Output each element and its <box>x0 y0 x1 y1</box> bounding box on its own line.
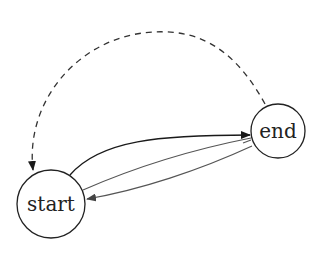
edge-start-to-end-straight <box>83 138 251 190</box>
edge-start-to-end-curved <box>70 135 250 175</box>
node-start: start <box>17 170 85 238</box>
state-diagram: start end <box>0 0 327 255</box>
node-start-label: start <box>27 192 75 216</box>
node-end: end <box>251 104 305 158</box>
diagram-canvas: start end <box>0 0 327 255</box>
edge-start-to-end-stub <box>243 140 251 143</box>
node-end-label: end <box>259 119 297 143</box>
edge-end-to-start <box>87 146 252 199</box>
edge-end-to-start-dashed <box>32 32 265 170</box>
